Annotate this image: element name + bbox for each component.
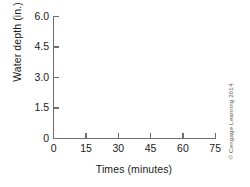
y-tick-label-1-5: 1.5 bbox=[9, 102, 49, 113]
x-tick-mark-75 bbox=[215, 133, 216, 138]
x-axis-label: Times (minutes) bbox=[53, 163, 215, 175]
plot-area bbox=[54, 16, 216, 138]
chart-figure: Water depth (in.) 6.0 4.5 3.0 1.5 0 0 15… bbox=[0, 0, 250, 187]
y-tick-label-0: 0 bbox=[9, 133, 49, 144]
x-tick-mark-30 bbox=[118, 133, 119, 138]
y-tick-label-6: 6.0 bbox=[9, 11, 49, 22]
x-tick-mark-15 bbox=[85, 133, 86, 138]
copyright-credit: © Cengage Learning 2014 bbox=[227, 62, 234, 182]
y-tick-label-4-5: 4.5 bbox=[9, 41, 49, 52]
x-tick-mark-60 bbox=[182, 133, 183, 138]
y-tick-label-3: 3.0 bbox=[9, 72, 49, 83]
x-tick-mark-45 bbox=[150, 133, 151, 138]
x-axis-line bbox=[53, 138, 216, 139]
